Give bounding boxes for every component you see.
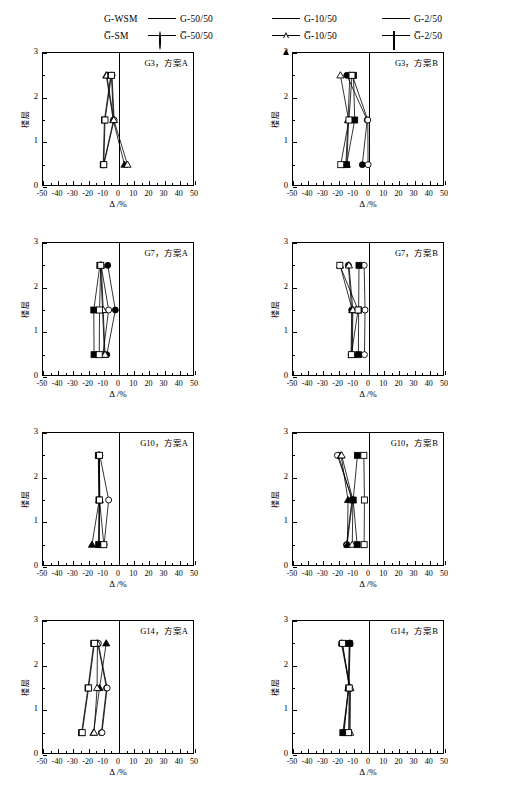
plot-area: G14，方案B [292, 620, 444, 754]
y-axis-tick-label: 0 [275, 748, 288, 758]
series-layer [293, 621, 445, 755]
data-series-group [293, 621, 445, 755]
x-axis-tick-label: 50 [434, 757, 454, 766]
y-axis-label: 楼层 [269, 665, 280, 709]
y-axis-tick-label: 3 [275, 614, 288, 624]
x-axis-label: Δ /% [346, 767, 390, 777]
x-tick [445, 749, 446, 753]
y-tick [293, 755, 297, 756]
chart-panel-8: G14，方案B-50-40-30-20-10010203040500123Δ /… [0, 0, 516, 798]
